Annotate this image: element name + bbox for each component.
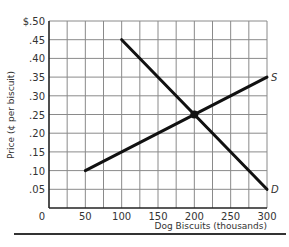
grid [49,21,267,208]
x-axis-label: Dog Biscuits (thousands) [155,221,267,231]
y-tick-label: .45 [29,35,45,46]
x-tick-label: 50 [79,211,92,222]
series-lines: SD [85,40,279,196]
y-tick-label: .05 [29,184,45,195]
equilibrium-point [190,111,198,119]
y-tick-label: .20 [29,128,45,139]
supply-demand-chart: .05.10.15.20.25.30.35.40.45$.50 05010015… [0,0,289,247]
y-tick-label: .40 [29,53,45,64]
x-tick-label: 100 [112,211,131,222]
y-tick-label: $.50 [23,16,45,27]
bottom-rule [14,233,286,235]
y-tick-label: .15 [29,147,45,158]
y-tick-label: .35 [29,72,45,83]
y-axis-ticks: .05.10.15.20.25.30.35.40.45$.50 [23,16,45,195]
curve-label-d: D [271,184,279,195]
y-axis-label: Price (¢ per biscuit) [6,71,16,159]
x-tick-label: 0 [39,211,45,222]
y-tick-label: .10 [29,166,45,177]
y-tick-label: .30 [29,91,45,102]
y-tick-label: .25 [29,110,45,121]
curve-label-s: S [271,72,278,83]
